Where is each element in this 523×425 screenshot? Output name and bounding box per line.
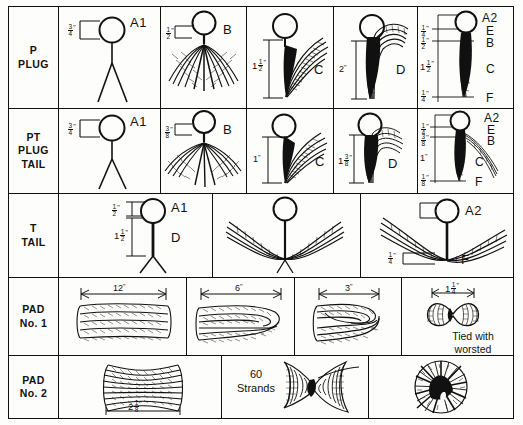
cell-pt-b: B 38" [161, 109, 247, 193]
cell-pad1-3in: 3" [295, 278, 402, 355]
figure-plugtail-b [161, 109, 247, 194]
table-row-pad-2: PAD No. 2 218" [9, 356, 513, 418]
table-row-p-plug: P PLUG A1 34" [9, 7, 513, 109]
figure-plug-a1 [58, 7, 161, 109]
chart-sheet: P PLUG A1 34" [0, 0, 523, 425]
cell-pad1-tied: 114" Tied with worsted [402, 278, 513, 355]
figure-plugtail-a1 [58, 109, 161, 194]
row-label-line-2: No. 1 [20, 317, 48, 330]
row-label-t-tail: T TAIL [9, 194, 59, 277]
cell-p-d: D 2" [334, 7, 418, 108]
figure-pad1-bow [402, 278, 513, 356]
figure-pad2-puff [369, 356, 513, 418]
figure-tail-a2 [361, 194, 513, 278]
row-label-line-3: TAIL [18, 158, 49, 171]
figure-plug-d [334, 7, 418, 109]
cell-pad2-bow: 60 Strands [222, 356, 369, 418]
cell-p-assembly: A2 E B C F 14" 12" 112" 14" [418, 7, 513, 108]
forms-table: P PLUG A1 34" [8, 6, 514, 419]
figure-plug-assembly [418, 7, 513, 109]
row-label-line-1: PAD [20, 303, 48, 316]
cell-pt-assembly: A2 E B C F 14" 38" 1" 18" [418, 109, 513, 193]
row-label-line-1: PAD [20, 374, 48, 387]
figure-pad1-folded-twice [295, 278, 402, 356]
figure-pad1-folded-once [187, 278, 295, 356]
cell-t-middle [213, 194, 361, 277]
table-row-pt-plug-tail: PT PLUG TAIL A1 34" [9, 109, 513, 194]
row-label-p-plug: P PLUG [9, 7, 59, 108]
row-label-line-2: No. 2 [20, 387, 48, 400]
table-row-pad-1: PAD No. 1 12" [9, 278, 513, 356]
table-row-t-tail: T TAIL A1 D 12" 112" [9, 194, 513, 278]
figure-plug-c [247, 7, 334, 109]
row-label-line-1: P [18, 44, 49, 57]
figure-plugtail-c [247, 109, 334, 194]
row-label-line-2: PLUG [18, 58, 49, 71]
figure-plug-b [161, 7, 247, 109]
row-label-pad-1: PAD No. 1 [9, 278, 59, 355]
figure-plugtail-d [334, 109, 418, 194]
row-label-line-2: PLUG [18, 144, 49, 157]
cell-t-a1: A1 D 12" 112" [58, 194, 213, 277]
cell-p-a1: A1 34" [58, 7, 161, 108]
figure-pad1-hank [58, 278, 187, 356]
figure-pad2-bundle [58, 356, 222, 418]
figure-tail-middle [213, 194, 361, 278]
cell-p-b: B 12" [161, 7, 247, 108]
row-label-line-2: TAIL [21, 236, 45, 249]
figure-pad2-bow [222, 356, 369, 418]
cell-t-a2: A2 F 14" [361, 194, 513, 277]
cell-pad2-puff [369, 356, 513, 418]
cell-pad2-bundle: 218" [58, 356, 222, 418]
row-label-line-1: T [21, 222, 45, 235]
cell-pt-d: D 138" [334, 109, 418, 193]
figure-plugtail-assembly [418, 109, 513, 194]
figure-tail-a1 [58, 194, 213, 278]
cell-pad1-6in: 6" [187, 278, 295, 355]
cell-pt-c: C 1" [247, 109, 334, 193]
row-label-pt-plug-tail: PT PLUG TAIL [9, 109, 59, 193]
row-label-pad-2: PAD No. 2 [9, 356, 59, 418]
cell-pt-a1: A1 34" [58, 109, 161, 193]
row-label-line-1: PT [18, 131, 49, 144]
cell-pad1-12in: 12" [58, 278, 187, 355]
cell-p-c: C 112" [247, 7, 334, 108]
